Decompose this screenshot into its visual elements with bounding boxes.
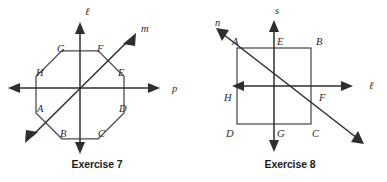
line-l [232,81,353,91]
arrow-head-l-top [75,22,85,34]
vertex-label-b: B [60,128,67,139]
vertex-label-a: A [36,103,44,114]
vertex-label-f: F [318,92,326,103]
figure-exercise-7: ℓ m p G F H E A D B C Exercise 7 [0,0,194,182]
arrow-head-m-upperright [123,33,136,46]
vertex-label-b: B [316,36,323,47]
caption-exercise-7: Exercise 7 [0,158,194,170]
arrow-head-l-right [341,81,353,91]
vertex-label-a: A [231,36,239,47]
vertex-label-e: E [117,67,125,78]
vertex-label-g: G [277,128,285,139]
arrow-head-l-left [232,81,244,91]
vertex-label-c: C [312,128,320,139]
arrow-head-p-right [148,83,160,93]
vertex-label-d: D [118,103,127,114]
vertex-label-c: C [98,128,106,139]
vertex-label-e: E [276,36,284,47]
exercise-figure-page: ℓ m p G F H E A D B C Exercise 7 [0,0,387,182]
line-label-p: p [171,83,177,94]
arrow-head-n-upperleft [216,28,229,41]
line-label-l: ℓ [369,80,374,91]
arrow-head-s-top [269,20,279,32]
vertex-label-d: D [225,128,234,139]
line-label-m: m [141,23,149,34]
figure-exercise-8: s n ℓ A E B H F D G C Exercise 8 [193,0,387,182]
vertex-label-h: H [223,92,233,103]
line-label-n: n [215,17,220,28]
line-label-s: s [275,5,279,16]
arrow-head-l-bottom [75,142,85,154]
arrow-head-s-bottom [269,140,279,152]
octagon-diagram: ℓ m p G F H E A D B C [0,0,194,156]
square-diagram: s n ℓ A E B H F D G C [193,0,387,156]
vertex-label-f: F [96,43,104,54]
vertex-label-g: G [57,43,65,54]
arrow-head-m-lowerleft [25,130,38,143]
arrow-head-p-left [8,83,20,93]
line-label-l: ℓ [85,6,90,17]
caption-exercise-8: Exercise 8 [193,158,387,170]
arrow-head-n-lowerright [351,131,364,144]
vertex-label-h: H [35,67,45,78]
